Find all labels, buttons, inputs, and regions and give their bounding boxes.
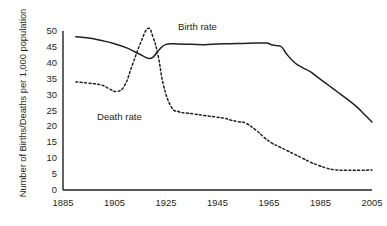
series-annotation-birth-rate: Birth rate	[178, 22, 217, 32]
line-series-death-rate	[76, 28, 372, 170]
series-annotation-death-rate: Death rate	[97, 112, 142, 122]
line-series-birth-rate	[76, 37, 372, 122]
